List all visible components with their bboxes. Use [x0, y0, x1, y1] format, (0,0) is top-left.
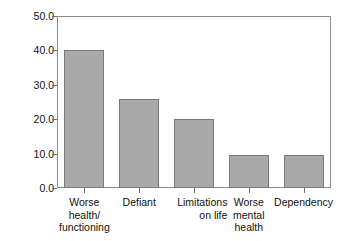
x-category-label-line: functioning [51, 221, 118, 234]
x-tick-mark [84, 188, 85, 193]
x-tick-mark [139, 188, 140, 193]
bar [174, 119, 214, 188]
x-category-label-line: Dependency [270, 196, 337, 209]
y-tick-mark [52, 188, 57, 189]
y-axis-ticks: 0.010.020.030.040.050.0 [8, 0, 54, 241]
y-tick-label: 40.0 [14, 44, 54, 56]
x-category-label-line: health [215, 221, 282, 234]
bars-layer [57, 16, 331, 188]
bar [119, 99, 159, 188]
y-tick-label: 30.0 [14, 79, 54, 91]
x-category-label: Dependency [270, 196, 337, 209]
bar [64, 50, 104, 188]
bar [229, 155, 269, 188]
y-tick-label: 50.0 [14, 10, 54, 22]
x-tick-mark [249, 188, 250, 193]
y-tick-mark [52, 85, 57, 86]
y-tick-mark [52, 50, 57, 51]
x-category-label-line: health/ [51, 209, 118, 222]
bar-chart-figure: Per cent 0.010.020.030.040.050.0 Worsehe… [0, 0, 342, 241]
y-tick-mark [52, 154, 57, 155]
bar [284, 155, 324, 188]
y-tick-label: 0.0 [14, 182, 54, 194]
x-tick-mark [194, 188, 195, 193]
y-tick-label: 20.0 [14, 113, 54, 125]
x-category-label-line: mental [215, 209, 282, 222]
y-tick-label: 10.0 [14, 148, 54, 160]
y-tick-mark [52, 119, 57, 120]
x-tick-mark [304, 188, 305, 193]
y-tick-mark [52, 16, 57, 17]
